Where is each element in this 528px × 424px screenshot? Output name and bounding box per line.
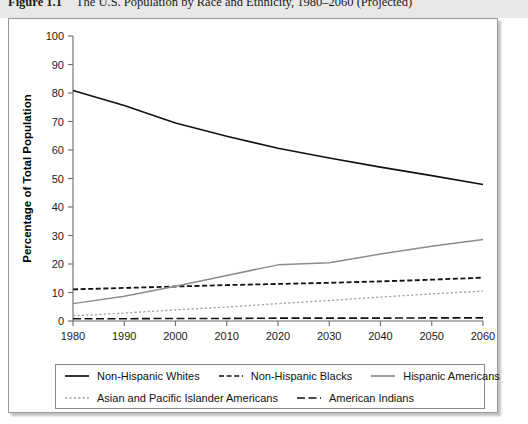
legend-line-swatch <box>218 371 244 381</box>
chart-legend: Non-Hispanic WhitesNon-Hispanic BlacksHi… <box>55 364 485 409</box>
legend-line-swatch <box>370 371 396 381</box>
legend-row: Non-Hispanic WhitesNon-Hispanic BlacksHi… <box>56 365 484 387</box>
x-tick-label: 2030 <box>317 330 341 342</box>
figure-caption-label: Figure 1.1 <box>8 0 62 9</box>
y-tick-label: 20 <box>52 258 64 270</box>
legend-entry-label: Hispanic Americans <box>403 370 500 382</box>
figure-caption: Figure 1.1The U.S. Population by Race an… <box>8 0 412 10</box>
series-line-4 <box>73 318 483 319</box>
x-tick-label: 2020 <box>266 330 290 342</box>
x-tick-label: 2060 <box>471 330 495 342</box>
legend-entry[interactable]: Hispanic Americans <box>370 370 500 382</box>
legend-line-swatch <box>296 393 322 403</box>
legend-entry[interactable]: American Indians <box>296 392 414 404</box>
line-chart-svg: 0102030405060708090100 19801990200020102… <box>9 19 499 359</box>
chart-plot-area: 0102030405060708090100 19801990200020102… <box>9 19 499 359</box>
x-tick-label: 1990 <box>112 330 136 342</box>
y-tick-label: 50 <box>52 173 64 185</box>
legend-entry-label: Non-Hispanic Whites <box>97 370 200 382</box>
x-axis: 198019902000201020202030204020502060 <box>61 321 495 342</box>
legend-entry[interactable]: Non-Hispanic Whites <box>64 370 200 382</box>
legend-line-swatch <box>64 371 90 381</box>
legend-line-swatch <box>64 393 90 403</box>
legend-entry-label: Non-Hispanic Blacks <box>251 370 352 382</box>
legend-entry-label: American Indians <box>329 392 414 404</box>
series-line-0 <box>73 90 483 184</box>
y-tick-label: 40 <box>52 201 64 213</box>
y-tick-label: 10 <box>52 287 64 299</box>
y-tick-label: 30 <box>52 230 64 242</box>
y-axis-title: Percentage of Total Population <box>21 94 33 262</box>
figure-frame: 0102030405060708090100 19801990200020102… <box>8 18 498 413</box>
legend-row: Asian and Pacific Islander AmericansAmer… <box>56 387 484 409</box>
y-tick-label: 60 <box>52 144 64 156</box>
legend-entry-label: Asian and Pacific Islander Americans <box>97 392 278 404</box>
legend-entry[interactable]: Non-Hispanic Blacks <box>218 370 352 382</box>
figure-caption-band: Figure 1.1The U.S. Population by Race an… <box>0 0 528 18</box>
series-line-1 <box>73 278 483 290</box>
y-tick-label: 70 <box>52 116 64 128</box>
y-tick-label: 80 <box>52 87 64 99</box>
x-tick-label: 2050 <box>420 330 444 342</box>
y-tick-label: 0 <box>58 315 64 327</box>
x-tick-label: 1980 <box>61 330 85 342</box>
chart-series-group <box>73 90 483 318</box>
figure-caption-text: The U.S. Population by Race and Ethnicit… <box>62 0 412 9</box>
y-axis-title-group: Percentage of Total Population <box>21 94 33 262</box>
x-tick-label: 2040 <box>368 330 392 342</box>
y-axis: 0102030405060708090100 <box>46 30 73 327</box>
legend-entry[interactable]: Asian and Pacific Islander Americans <box>64 392 278 404</box>
y-tick-label: 100 <box>46 30 64 42</box>
x-tick-label: 2000 <box>163 330 187 342</box>
x-tick-label: 2010 <box>215 330 239 342</box>
y-tick-label: 90 <box>52 59 64 71</box>
